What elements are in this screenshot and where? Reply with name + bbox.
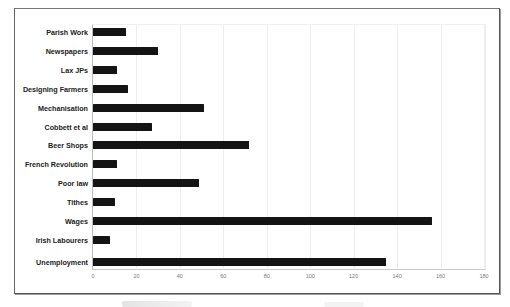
- gridline: [397, 24, 398, 268]
- bar: [93, 47, 158, 55]
- x-tick-label: 80: [257, 273, 277, 279]
- x-tick-label: 0: [83, 273, 103, 279]
- bar: [93, 28, 126, 36]
- bar: [93, 258, 386, 266]
- bar: [93, 217, 432, 225]
- x-tick-label: 180: [474, 273, 494, 279]
- bar: [93, 160, 117, 168]
- gridline: [441, 24, 442, 268]
- category-label: Unemployment: [0, 258, 88, 267]
- figure-caption-fragment: [122, 301, 192, 307]
- category-label: Wages: [0, 217, 88, 226]
- category-label: Beer Shops: [0, 141, 88, 150]
- category-label: Tithes: [0, 198, 88, 207]
- x-tick-label: 140: [387, 273, 407, 279]
- x-tick-label: 40: [170, 273, 190, 279]
- category-label: Designing Farmers: [0, 85, 88, 94]
- category-label: French Revolution: [0, 160, 88, 169]
- category-label: Newspapers: [0, 47, 88, 56]
- x-tick-label: 20: [126, 273, 146, 279]
- x-tick-label: 60: [213, 273, 233, 279]
- category-label: Irish Labourers: [0, 236, 88, 245]
- x-tick-label: 100: [300, 273, 320, 279]
- bar: [93, 123, 152, 131]
- bar: [93, 198, 115, 206]
- bar: [93, 66, 117, 74]
- figure-caption-fragment-2: [324, 302, 364, 307]
- x-tick-label: 120: [344, 273, 364, 279]
- category-label: Cobbett et al: [0, 123, 88, 132]
- category-label: Mechanisation: [0, 104, 88, 113]
- bar: [93, 104, 204, 112]
- gridline: [484, 24, 485, 268]
- gridline: [310, 24, 311, 268]
- category-label: Poor law: [0, 179, 88, 188]
- category-label: Parish Work: [0, 28, 88, 37]
- bar: [93, 85, 128, 93]
- category-label: Lax JPs: [0, 66, 88, 75]
- gridline: [267, 24, 268, 268]
- x-tick-label: 160: [431, 273, 451, 279]
- bar: [93, 179, 199, 187]
- gridline: [354, 24, 355, 268]
- bar: [93, 141, 249, 149]
- bar: [93, 236, 110, 244]
